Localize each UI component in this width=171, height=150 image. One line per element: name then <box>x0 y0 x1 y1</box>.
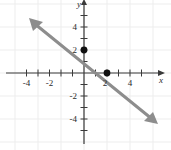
y-tick-label-neg4: -4 <box>70 114 78 124</box>
grid-lines <box>0 0 171 150</box>
y-tick-label-2: 2 <box>73 45 78 55</box>
plotted-line-series <box>29 18 158 124</box>
y-axis-label: y <box>76 0 81 9</box>
graph-svg: -4 -2 2 4 4 2 -2 -4 x y <box>0 0 171 150</box>
x-tick-label-4: 4 <box>128 78 133 88</box>
x-tick-label-2: 2 <box>103 78 108 88</box>
y-tick-label-4: 4 <box>73 22 78 32</box>
point-x-intercept <box>104 70 111 77</box>
y-axis <box>81 0 87 144</box>
x-tick-label-neg4: -4 <box>23 78 31 88</box>
y-tick-label-neg2: -2 <box>70 91 78 101</box>
coordinate-plane-graph: -4 -2 2 4 4 2 -2 -4 x y <box>0 0 171 150</box>
x-tick-label-neg2: -2 <box>46 78 54 88</box>
point-y-intercept <box>81 47 88 54</box>
x-axis-label: x <box>158 75 163 85</box>
y-axis-arrow <box>81 0 87 5</box>
line-segment <box>35 24 152 119</box>
